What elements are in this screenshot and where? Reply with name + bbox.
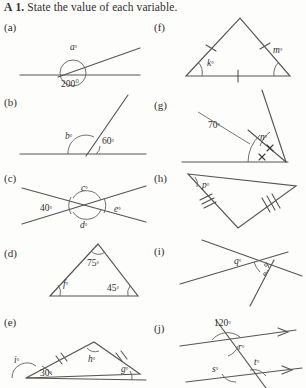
- part-label-c: (c): [4, 172, 16, 184]
- label-j-lower-right: t°: [254, 357, 260, 367]
- label-i-var: q°: [234, 256, 242, 266]
- figure-f: k° m°: [180, 14, 300, 86]
- exercise-marker: A: [4, 1, 12, 13]
- part-label-h: (h): [154, 172, 167, 184]
- label-c-right: e°: [114, 204, 121, 214]
- figure-c: c° 40° e° d°: [18, 172, 152, 234]
- part-label-i: (i): [154, 245, 164, 257]
- figure-a: a°: [18, 32, 148, 87]
- part-label-g: (g): [154, 99, 167, 111]
- label-d-right: 45°: [107, 283, 120, 293]
- label-c-top: c°: [81, 183, 88, 193]
- part-label-a: (a): [4, 21, 16, 33]
- page-title: A 1. State the value of each variable.: [4, 1, 177, 13]
- label-a-reflex: 200°: [61, 79, 79, 89]
- part-label-j: (j): [154, 322, 164, 334]
- part-label-f: (f): [154, 21, 165, 33]
- label-g-given: 70°: [208, 120, 221, 130]
- figure-b: b° 60°: [18, 92, 152, 162]
- figure-e: i° 30° h° g°: [6, 320, 152, 386]
- figure-h: p°: [180, 168, 304, 236]
- congruence-cross-upper: [267, 145, 273, 151]
- label-c-given: 40°: [40, 203, 53, 213]
- label-j-upper: r°: [238, 342, 245, 352]
- label-f-left: k°: [207, 58, 214, 68]
- label-f-exterior: m°: [273, 45, 283, 55]
- congruence-cross-lower: [259, 154, 265, 160]
- label-e-exterior: i°: [14, 355, 20, 365]
- label-a-var: a°: [70, 42, 78, 52]
- label-c-bottom: d°: [80, 220, 88, 230]
- label-b-var: b°: [65, 131, 73, 141]
- part-label-d: (d): [4, 247, 17, 259]
- label-d-apex: 75°: [87, 258, 100, 268]
- label-e-base: 30°: [40, 368, 53, 378]
- label-j-given: 120°: [214, 318, 231, 328]
- label-d-left: f°: [63, 279, 69, 289]
- figure-d: 75° f° 45°: [36, 240, 146, 306]
- label-g-var: n°: [260, 132, 268, 142]
- figure-i: q°: [176, 238, 304, 310]
- label-b-given: 60°: [102, 136, 115, 146]
- exercise-number: 1.: [15, 1, 24, 13]
- figure-g: 70° n°: [178, 88, 304, 166]
- label-e-right: g°: [121, 364, 129, 374]
- label-h-apex: p°: [201, 180, 210, 190]
- exercise-instruction: State the value of each variable.: [27, 1, 177, 13]
- part-label-b: (b): [4, 96, 17, 108]
- label-e-apex: h°: [88, 354, 96, 364]
- figure-j: 120° r° s° t°: [178, 312, 306, 388]
- label-j-lower-left: s°: [212, 364, 219, 374]
